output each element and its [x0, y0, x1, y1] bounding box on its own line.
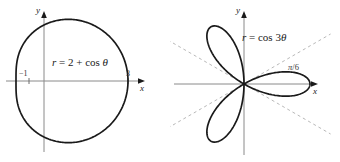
polar-graphs-figure: y x −1 3 r = 2 + cos θ y x	[0, 0, 340, 162]
limacon-y-axis-arrowhead	[41, 11, 47, 18]
rose-equation-theta: θ	[281, 31, 286, 43]
rose-plot	[170, 0, 340, 162]
rose-x-axis-label: x	[313, 87, 317, 96]
limacon-equation-body: = 2 + cos	[56, 56, 102, 68]
limacon-equation-theta: θ	[103, 56, 108, 68]
rose-angle-label-pi-over-six: π/6	[288, 63, 299, 72]
rose-equation: r = cos 3θ	[242, 32, 286, 43]
rose-petal-upper-left	[207, 26, 244, 84]
limacon-y-axis-label: y	[36, 6, 40, 15]
limacon-tick-label-minus-one: −1	[19, 70, 28, 78]
rose-petal-lower-left	[207, 84, 244, 142]
rose-y-axis-label: y	[236, 6, 240, 15]
limacon-x-axis-label: x	[140, 84, 144, 93]
rose-angle-label-denominator: /6	[292, 62, 299, 72]
rose-panel: y x r = cos 3θ π/6	[170, 0, 340, 162]
limacon-tick-label-three: 3	[126, 70, 130, 78]
rose-y-axis-arrowhead	[241, 11, 247, 18]
limacon-equation: r = 2 + cos θ	[52, 57, 108, 68]
limacon-plot	[0, 0, 170, 162]
limacon-panel: y x −1 3 r = 2 + cos θ	[0, 0, 170, 162]
rose-equation-body: = cos 3	[246, 31, 281, 43]
